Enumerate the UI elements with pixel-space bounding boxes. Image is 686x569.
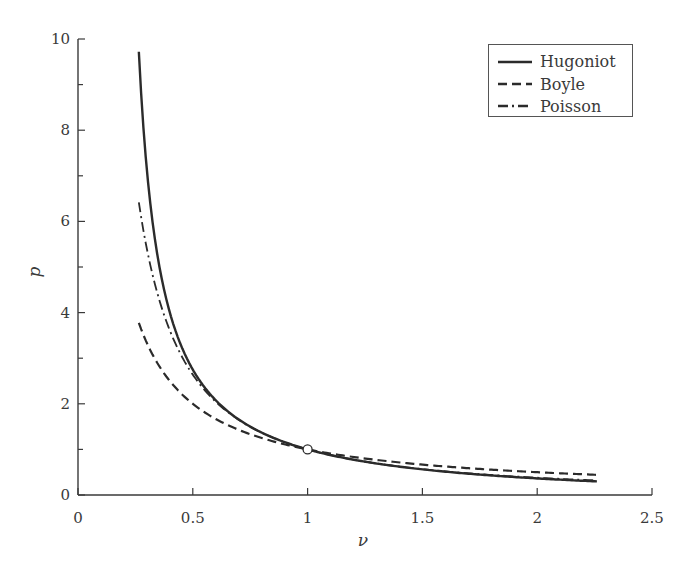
y-tick-label: 4: [60, 304, 70, 322]
x-axis-label: ν: [358, 530, 368, 550]
legend-label-hugoniot: Hugoniot: [540, 52, 616, 71]
markers: [303, 445, 312, 454]
y-tick-label: 6: [60, 212, 70, 230]
x-tick-label: 1: [303, 509, 313, 527]
y-tick-label: 8: [60, 121, 70, 139]
y-tick-label: 0: [60, 486, 70, 504]
x-tick-label: 1.5: [410, 509, 434, 527]
y-axis-label: p: [24, 266, 44, 277]
legend-label-boyle: Boyle: [540, 75, 585, 94]
x-tick-label: 0.5: [181, 509, 205, 527]
y-tick-label: 10: [51, 30, 70, 48]
x-tick-label: 0: [73, 509, 83, 527]
x-tick-label: 2.5: [640, 509, 664, 527]
y-tick-label: 2: [60, 395, 70, 413]
legend: Hugoniot Boyle Poisson: [489, 45, 633, 117]
curve-poisson: [139, 202, 597, 480]
reference-point-marker: [303, 445, 312, 454]
legend-label-poisson: Poisson: [540, 97, 601, 116]
x-tick-label: 2: [532, 509, 542, 527]
curve-boyle: [139, 323, 597, 475]
pressure-volume-chart: 00.511.522.50246810 ν p Hugoniot Boyle P…: [0, 0, 686, 569]
